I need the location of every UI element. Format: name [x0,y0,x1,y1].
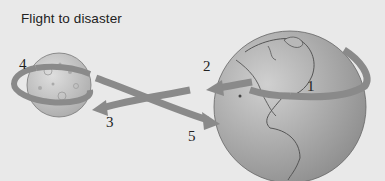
label-1: 1 [307,78,315,95]
label-3: 3 [106,114,114,131]
label-5: 5 [188,128,196,145]
moon-icon [27,53,91,117]
diagram-canvas [0,0,385,181]
label-4: 4 [19,56,27,73]
label-2: 2 [203,58,211,75]
